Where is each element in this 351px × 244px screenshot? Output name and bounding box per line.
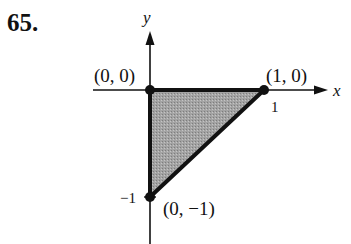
- y-axis-arrow-icon: [146, 31, 155, 45]
- x-axis-arrow-icon: [314, 86, 328, 95]
- vertex-label-0-neg1: (0, −1): [163, 198, 215, 220]
- vertex-point-origin: [145, 85, 155, 95]
- vertex-point-1-0: [259, 85, 269, 95]
- x-axis-label: x: [332, 81, 341, 100]
- shaded-triangle-region: [150, 90, 264, 197]
- problem-number: 65.: [7, 9, 38, 36]
- figure: 65. x y (0, 0) (1, 0) (0, −1) 1 −1: [0, 0, 351, 244]
- vertex-label-origin: (0, 0): [94, 65, 135, 87]
- vertex-label-1-0: (1, 0): [266, 65, 307, 87]
- y-axis-label: y: [141, 8, 151, 27]
- x-tick-label: 1: [271, 99, 279, 115]
- y-tick-label: −1: [120, 190, 136, 206]
- coordinate-plot: 65. x y (0, 0) (1, 0) (0, −1) 1 −1: [0, 0, 351, 244]
